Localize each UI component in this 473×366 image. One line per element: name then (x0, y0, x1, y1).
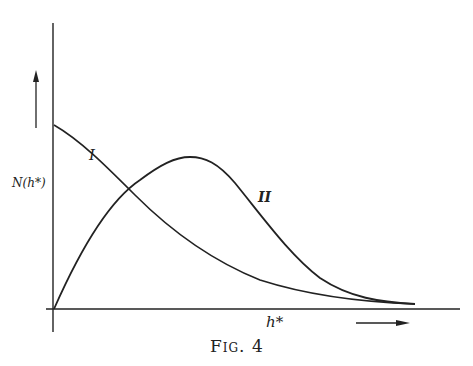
curve-II (54, 157, 415, 309)
figure-caption: Fig. 4 (210, 336, 264, 356)
curve-I-label: I (89, 146, 95, 164)
y-axis-label: N(h*) (12, 176, 46, 190)
chart-canvas (0, 0, 473, 366)
x-axis-label: h* (266, 313, 283, 331)
curve-II-label: II (258, 189, 271, 205)
y-direction-arrow-icon (33, 70, 39, 128)
curve-I (54, 125, 415, 304)
x-direction-arrow-icon (356, 320, 410, 326)
